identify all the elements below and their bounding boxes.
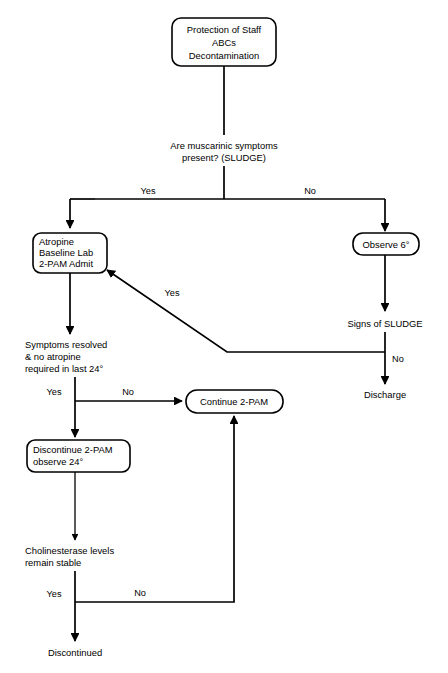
node-discontinued-label: Discontinued xyxy=(48,647,102,658)
node-atropine-line-3: 2-PAM Admit xyxy=(39,258,93,269)
flowchart-canvas: Protection of Staff ABCs Decontamination… xyxy=(0,0,448,673)
branch-label-sludge-no: No xyxy=(392,354,404,364)
branch-label-cholinesterase-no: No xyxy=(134,588,146,598)
branch-label-sludge-yes: Yes xyxy=(165,288,180,298)
node-continue-2pam-label: Continue 2-PAM xyxy=(200,396,268,407)
node-start-line-3: Decontamination xyxy=(189,50,259,61)
node-atropine-line-1: Atropine xyxy=(39,236,74,247)
node-symptoms-resolved-line-1: Symptoms resolved xyxy=(25,339,107,350)
node-observe6-label: Observe 6° xyxy=(363,239,410,250)
edge-sludge-yes-feedback xyxy=(107,270,385,352)
node-start-line-2: ABCs xyxy=(212,37,236,48)
node-cholinesterase-line-2: remain stable xyxy=(25,557,81,568)
node-muscarinic-question-line-1: Are muscarinic symptoms xyxy=(170,140,278,151)
node-start-line-1: Protection of Staff xyxy=(187,24,262,35)
branch-label-resolved-no: No xyxy=(122,387,134,397)
node-discontinue-2pam-line-1: Discontinue 2-PAM xyxy=(33,444,113,455)
node-signs-of-sludge-label: Signs of SLUDGE xyxy=(347,318,422,329)
node-atropine-line-2: Baseline Lab xyxy=(39,247,93,258)
node-discharge-label: Discharge xyxy=(364,389,406,400)
node-discontinue-2pam-line-2: observe 24° xyxy=(33,456,83,467)
branch-label-resolved-yes: Yes xyxy=(47,387,62,397)
flowchart-container: Protection of Staff ABCs Decontamination… xyxy=(0,0,448,673)
node-symptoms-resolved-line-3: required in last 24° xyxy=(25,363,104,374)
node-cholinesterase-line-1: Cholinesterase levels xyxy=(25,545,114,556)
branch-label-muscarinic-yes: Yes xyxy=(141,186,156,196)
node-muscarinic-question-line-2: present? (SLUDGE) xyxy=(182,152,266,163)
branch-label-muscarinic-no: No xyxy=(304,186,316,196)
branch-label-cholinesterase-yes: Yes xyxy=(47,589,62,599)
node-symptoms-resolved-line-2: & no atropine xyxy=(25,351,81,362)
